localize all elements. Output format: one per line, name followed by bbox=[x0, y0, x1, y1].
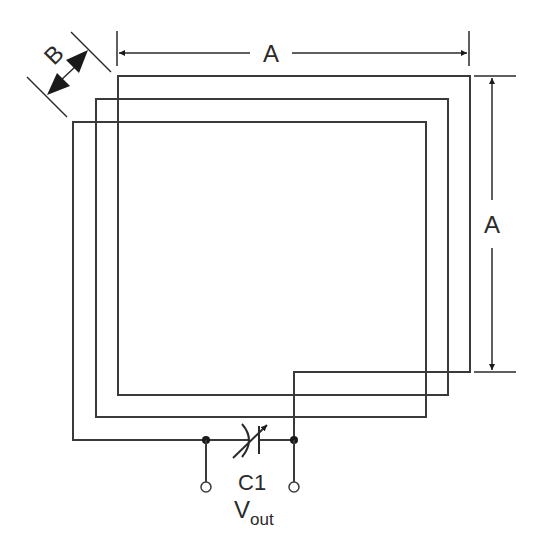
output-terminal-right bbox=[289, 482, 299, 492]
output-label-sub: out bbox=[250, 510, 274, 529]
dim-right-label: A bbox=[484, 211, 500, 238]
dim-b-label: B bbox=[38, 39, 68, 69]
dim-top-label: A bbox=[263, 40, 279, 67]
output-terminal-left bbox=[201, 482, 211, 492]
variable-capacitor-arrow-icon bbox=[233, 425, 267, 458]
dim-b-arrowhead-top bbox=[66, 50, 88, 73]
output-label: Vout bbox=[234, 496, 274, 529]
capacitor-label: C1 bbox=[238, 470, 266, 495]
spiral-coil bbox=[73, 76, 470, 440]
output-label-main: V bbox=[234, 496, 250, 523]
loop-antenna-diagram: C1 Vout A A B bbox=[0, 0, 549, 552]
dim-b-arrowhead-bottom bbox=[47, 73, 70, 95]
